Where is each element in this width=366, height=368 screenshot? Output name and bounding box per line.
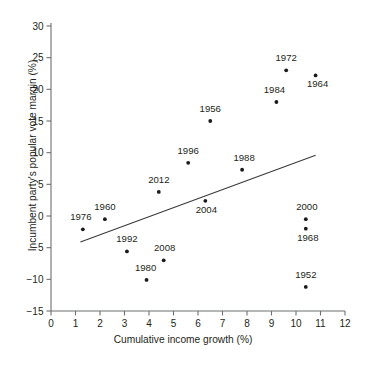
- figure: 0123456789101112−15−10−50510152025301972…: [0, 0, 366, 368]
- x-tick-label: 2: [97, 318, 103, 329]
- x-tick-label: 5: [171, 318, 177, 329]
- x-tick-label: 0: [48, 318, 54, 329]
- data-point[interactable]: [81, 227, 85, 231]
- data-point-label: 1952: [295, 269, 316, 280]
- data-point[interactable]: [304, 217, 308, 221]
- data-point-label: 1992: [116, 233, 137, 244]
- data-point[interactable]: [145, 278, 149, 282]
- data-point-label: 1996: [178, 145, 199, 156]
- x-tick-label: 11: [315, 318, 326, 329]
- data-point-label: 1972: [276, 52, 297, 63]
- data-point-label: 1960: [94, 201, 115, 212]
- x-tick-label: 9: [269, 318, 275, 329]
- trend-line: [80, 155, 315, 242]
- x-tick-label: 7: [220, 318, 226, 329]
- x-tick-label: 1: [73, 318, 79, 329]
- data-point[interactable]: [240, 168, 244, 172]
- y-tick-label: 5: [38, 179, 44, 190]
- data-point-label: 1988: [233, 152, 254, 163]
- data-point[interactable]: [186, 161, 190, 165]
- data-point-label: 1968: [297, 232, 318, 243]
- y-axis-label: Incumbent party's popular vote margin (%…: [27, 16, 38, 296]
- data-point[interactable]: [304, 285, 308, 289]
- data-point[interactable]: [314, 74, 318, 78]
- x-tick-label: 10: [290, 318, 302, 329]
- data-point-label: 1984: [264, 84, 286, 95]
- data-point-label: 2000: [296, 201, 317, 212]
- data-point-label: 2008: [154, 242, 175, 253]
- data-point-label: 1956: [200, 103, 221, 114]
- data-point-label: 1976: [70, 211, 91, 222]
- data-point[interactable]: [284, 68, 288, 72]
- data-point-label: 2004: [196, 204, 218, 215]
- data-point[interactable]: [208, 119, 212, 123]
- data-point-label: 1964: [307, 78, 329, 89]
- data-point[interactable]: [103, 217, 107, 221]
- data-point[interactable]: [304, 227, 308, 231]
- x-tick-label: 4: [146, 318, 152, 329]
- data-point-label: 1980: [135, 262, 156, 273]
- x-tick-label: 3: [122, 318, 128, 329]
- x-tick-label: 8: [244, 318, 250, 329]
- data-point[interactable]: [203, 199, 207, 203]
- figure-caption: [10, 358, 360, 368]
- data-point[interactable]: [275, 100, 279, 104]
- data-point-label: 2012: [148, 174, 169, 185]
- x-tick-label: 6: [195, 318, 201, 329]
- data-point[interactable]: [157, 190, 161, 194]
- data-point[interactable]: [162, 258, 166, 262]
- y-tick-label: −15: [27, 306, 44, 317]
- data-point[interactable]: [125, 250, 129, 254]
- scatter-plot: 0123456789101112−15−10−50510152025301972…: [0, 0, 366, 368]
- y-tick-label: 0: [38, 211, 44, 222]
- x-axis-label: Cumulative income growth (%): [0, 334, 366, 345]
- x-tick-label: 12: [339, 318, 351, 329]
